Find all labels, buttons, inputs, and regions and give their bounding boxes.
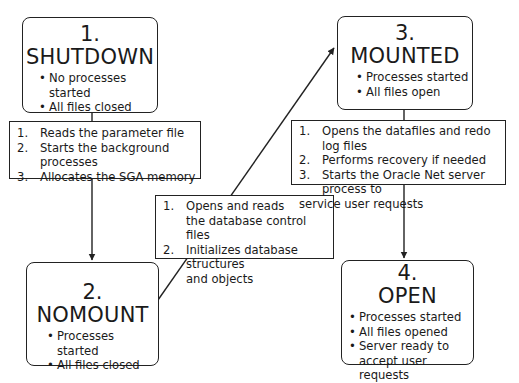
state-name: MOUNTED bbox=[338, 44, 472, 68]
state-number: 2. bbox=[27, 281, 158, 303]
bullet-item: All files open bbox=[356, 85, 472, 100]
state-bullets: Processes started All files opened Serve… bbox=[349, 310, 473, 383]
bullet-item: All files opened bbox=[349, 325, 473, 340]
steps-list: 1. Opens and reads the database control … bbox=[163, 199, 333, 286]
state-bullets: No processes started All files closed bbox=[39, 71, 157, 115]
steps-mounted-to-open: 1. Opens the datafiles and redo log file… bbox=[291, 120, 506, 185]
step-index: 1. bbox=[299, 124, 317, 139]
step-index: 2. bbox=[17, 141, 35, 156]
step-text-line-2: service user requests bbox=[299, 197, 505, 212]
step-item: 2. Performs recovery if needed bbox=[299, 153, 505, 168]
bullet-item: Processes started bbox=[349, 310, 473, 325]
state-shutdown: 1. SHUTDOWN No processes started All fil… bbox=[22, 17, 158, 113]
step-text-line-2: and objects bbox=[186, 272, 333, 287]
steps-shutdown-to-nomount: 1. Reads the parameter file 2. Starts th… bbox=[9, 121, 201, 179]
step-index: 3. bbox=[299, 168, 317, 183]
state-open: 4. OPEN Processes started All files open… bbox=[341, 260, 474, 365]
step-text-line-1: Starts the Oracle Net server process to bbox=[322, 168, 505, 197]
state-name: NOMOUNT bbox=[27, 303, 158, 327]
step-item: 1. Opens the datafiles and redo log file… bbox=[299, 124, 505, 153]
step-index: 3. bbox=[17, 170, 35, 185]
state-name: SHUTDOWN bbox=[23, 45, 157, 69]
state-number: 1. bbox=[23, 23, 157, 45]
step-item: 2. Starts the background processes bbox=[17, 141, 200, 170]
step-text: Performs recovery if needed bbox=[322, 153, 505, 168]
step-text: Reads the parameter file bbox=[40, 126, 200, 141]
state-number: 3. bbox=[338, 22, 472, 44]
state-bullets: Processes started All files open bbox=[356, 70, 472, 99]
bullet-item: No processes started bbox=[39, 71, 157, 100]
step-index: 1. bbox=[17, 126, 35, 141]
step-text: Allocates the SGA memory bbox=[40, 170, 200, 185]
steps-list: 1. Opens the datafiles and redo log file… bbox=[299, 124, 505, 211]
bullet-item: Processes started bbox=[356, 70, 472, 85]
step-text-line-1: Initializes database structures bbox=[186, 243, 333, 272]
step-text: Opens the datafiles and redo log files bbox=[322, 124, 505, 153]
step-item: 2. Initializes database structures and o… bbox=[163, 243, 333, 287]
bullet-item: Processes started bbox=[47, 329, 158, 358]
step-text-line-2: the database control files bbox=[186, 214, 333, 243]
step-item: 1. Reads the parameter file bbox=[17, 126, 200, 141]
bullet-item: Server ready to accept user requests bbox=[349, 339, 473, 383]
bullet-item: All files closed bbox=[47, 358, 158, 373]
bullet-item: All files closed bbox=[39, 100, 157, 115]
steps-list: 1. Reads the parameter file 2. Starts th… bbox=[17, 126, 200, 184]
step-text: Starts the background processes bbox=[40, 141, 200, 170]
state-bullets: Processes started All files closed bbox=[47, 329, 158, 373]
state-name: OPEN bbox=[342, 284, 473, 308]
step-item: 3. Starts the Oracle Net server process … bbox=[299, 168, 505, 212]
state-mounted: 3. MOUNTED Processes started All files o… bbox=[337, 16, 473, 110]
step-index: 1. bbox=[163, 199, 181, 214]
state-nomount: 2. NOMOUNT Processes started All files c… bbox=[26, 262, 159, 366]
step-index: 2. bbox=[299, 153, 317, 168]
step-item: 3. Allocates the SGA memory bbox=[17, 170, 200, 185]
state-number: 4. bbox=[342, 262, 473, 284]
step-index: 2. bbox=[163, 243, 181, 258]
